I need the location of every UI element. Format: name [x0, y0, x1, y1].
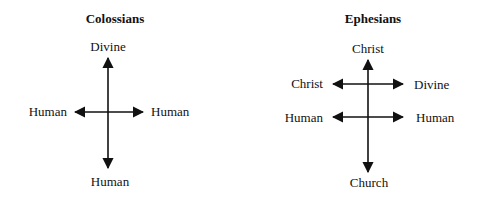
- ephesians-title: Ephesians: [345, 11, 401, 27]
- colossians-diagram: [75, 58, 143, 168]
- colossians-title: Colossians: [86, 11, 145, 27]
- ephesians-lower-left-label: Human: [285, 110, 323, 126]
- ephesians-diagram: [333, 60, 403, 172]
- colossians-left-label: Human: [29, 104, 67, 120]
- ephesians-upper-left-label: Christ: [291, 76, 323, 92]
- ephesians-top-label: Christ: [352, 41, 384, 57]
- colossians-bottom-label: Human: [91, 174, 129, 190]
- colossians-right-label: Human: [151, 104, 189, 120]
- arrows-layer: [0, 0, 478, 201]
- ephesians-lower-right-label: Human: [416, 110, 454, 126]
- ephesians-upper-right-label: Divine: [414, 77, 449, 93]
- colossians-top-label: Divine: [90, 39, 125, 55]
- ephesians-bottom-label: Church: [350, 175, 388, 191]
